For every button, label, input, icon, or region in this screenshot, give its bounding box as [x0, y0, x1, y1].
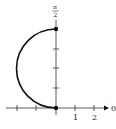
tick-label-2: 2 — [92, 113, 97, 122]
denominator-label: 2 — [54, 11, 58, 18]
axis-arrow-icon — [104, 106, 109, 111]
point-pole — [54, 106, 58, 110]
tick-label-1: 1 — [73, 113, 78, 122]
point-top — [54, 27, 58, 31]
polar-chart: 0 1 2 π 2 — [0, 0, 116, 129]
polar-axis-label: 0 — [111, 104, 116, 113]
polar-curve — [17, 29, 57, 108]
pi-label: π — [53, 3, 57, 10]
